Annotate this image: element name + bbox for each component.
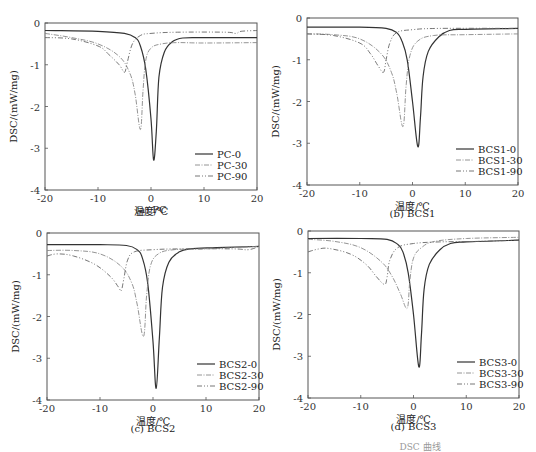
y-tick-label: -4 <box>293 393 303 404</box>
y-axis-label: DSC/(mW/mg) <box>8 70 19 143</box>
panel-a-pc: -20-10010200-1-2-3-4温度/℃DSC/(mW/mg)(a) P… <box>8 18 263 217</box>
series-line-bcs1-30 <box>307 34 518 127</box>
x-tick-label: 10 <box>459 188 472 199</box>
y-tick-label: -3 <box>293 351 303 362</box>
y-tick-label: 0 <box>297 226 303 237</box>
x-tick-label: 0 <box>150 403 156 414</box>
y-tick-label: 0 <box>296 13 302 24</box>
series-line-bcs2-90 <box>47 246 259 291</box>
y-tick-label: -2 <box>293 310 303 321</box>
y-tick-label: -2 <box>30 102 40 113</box>
y-tick-label: -3 <box>32 353 42 364</box>
y-tick-label: -1 <box>32 270 42 281</box>
y-tick-label: -1 <box>30 60 40 71</box>
legend-label: BCS1-90 <box>478 166 523 177</box>
x-tick-label: -10 <box>352 188 368 199</box>
y-axis-label: DSC/(mW/mg) <box>10 280 21 353</box>
y-tick-label: 0 <box>36 228 42 239</box>
x-tick-label: 0 <box>410 401 416 412</box>
x-tick-label: -10 <box>353 401 369 412</box>
x-tick-label: 20 <box>253 403 266 414</box>
series-line-bcs3-90 <box>308 240 519 284</box>
series-group <box>307 27 518 147</box>
panel-caption: (d) BCS3 <box>391 421 437 432</box>
y-axis-label: DSC/(mW/mg) <box>271 278 282 351</box>
legend-label: PC-0 <box>217 149 241 160</box>
legend-label: BCS3-90 <box>479 379 524 390</box>
panel-caption: (c) BCS2 <box>131 423 176 434</box>
x-tick-label: 0 <box>148 193 154 204</box>
x-tick-label: 10 <box>200 403 213 414</box>
x-tick-label: 0 <box>409 188 415 199</box>
legend-label: BCS3-30 <box>479 368 524 379</box>
series-line-bcs3-30 <box>308 237 519 308</box>
panel-caption: (a) PC <box>135 204 167 215</box>
panel-c-bcs2: -20-10010200-1-2-3-4温度/℃DSC/(mW/mg)(c) B… <box>10 228 265 434</box>
y-tick-label: -3 <box>30 143 40 154</box>
x-tick-label: 10 <box>460 401 473 412</box>
legend-label: BCS3-0 <box>479 357 517 368</box>
y-tick-label: -4 <box>32 395 42 406</box>
series-line-bcs2-30 <box>47 246 259 336</box>
y-tick-label: -2 <box>32 312 42 323</box>
y-tick-label: -1 <box>292 55 302 66</box>
y-tick-label: -4 <box>30 185 40 196</box>
x-tick-label: -10 <box>92 403 108 414</box>
legend-label: BCS2-90 <box>219 381 264 392</box>
x-tick-label: 20 <box>513 401 526 412</box>
x-tick-label: 10 <box>198 193 211 204</box>
x-tick-label: 20 <box>512 188 525 199</box>
series-line-pc-90 <box>45 31 257 73</box>
y-tick-label: -2 <box>292 97 302 108</box>
panel-b-bcs1: -20-10010200-1-2-3-4温度/℃DSC/(mW/mg)(b) B… <box>270 13 524 219</box>
legend-label: PC-90 <box>217 171 247 182</box>
y-tick-label: 0 <box>34 18 40 29</box>
series-line-pc-0 <box>45 31 257 161</box>
series-group <box>45 31 257 161</box>
figure-caption: DSC 曲线 <box>399 441 440 452</box>
y-tick-label: -4 <box>292 180 302 191</box>
panel-caption: (b) BCS1 <box>390 208 436 219</box>
series-group <box>308 237 519 367</box>
legend-label: PC-30 <box>217 160 247 171</box>
panel-d-bcs3: -20-10010200-1-2-3-4温度/℃DSC/(mW/mg)(d) B… <box>271 226 525 432</box>
series-line-bcs1-0 <box>307 27 518 147</box>
y-tick-label: -1 <box>293 268 303 279</box>
y-axis-label: DSC/(mW/mg) <box>270 65 281 138</box>
legend-label: BCS1-0 <box>478 144 516 155</box>
legend-label: BCS2-30 <box>219 370 264 381</box>
dsc-figure: -20-10010200-1-2-3-4温度/℃DSC/(mW/mg)(a) P… <box>0 0 536 452</box>
x-tick-label: -10 <box>90 193 106 204</box>
y-tick-label: -3 <box>292 138 302 149</box>
legend-label: BCS2-0 <box>219 359 257 370</box>
legend-label: BCS1-30 <box>478 155 523 166</box>
x-tick-label: 20 <box>251 193 264 204</box>
